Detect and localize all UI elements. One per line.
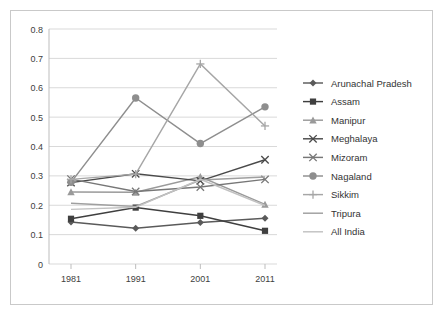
- x-axis-tick-label: 2001: [190, 274, 210, 284]
- x-axis-tick-label: 2011: [255, 274, 274, 284]
- legend-item-label: Sikkim: [331, 189, 359, 200]
- y-axis-tick-label: 0: [38, 260, 43, 270]
- legend-item-label: Assam: [331, 96, 360, 107]
- y-axis-tick-label: 0.7: [30, 54, 43, 64]
- legend-item-label: Meghalaya: [331, 133, 378, 144]
- data-point-marker: [197, 219, 204, 226]
- x-axis-tick-label: 1991: [126, 274, 146, 284]
- data-point-marker: [310, 99, 316, 105]
- chart-frame: 00.10.20.30.40.50.60.70.8198119912001201…: [10, 10, 433, 305]
- legend-item-sikkim[interactable]: Sikkim: [303, 189, 359, 200]
- legend-item-mizoram[interactable]: Mizoram: [303, 152, 368, 163]
- legend-item-all-india[interactable]: All India: [303, 226, 366, 237]
- series-arunachal-pradesh: [68, 215, 269, 232]
- series-line: [71, 160, 265, 183]
- series-line: [71, 218, 265, 228]
- data-point-marker: [262, 228, 268, 234]
- legend-item-manipur[interactable]: Manipur: [303, 115, 365, 126]
- series-meghalaya: [67, 156, 268, 186]
- data-point-marker: [262, 215, 269, 222]
- y-axis-tick-label: 0.5: [30, 113, 43, 123]
- legend-item-label: Arunachal Pradesh: [331, 78, 412, 89]
- legend-item-nagaland[interactable]: Nagaland: [303, 171, 372, 182]
- data-point-marker: [310, 80, 317, 87]
- data-point-marker: [309, 172, 316, 179]
- y-axis-tick-label: 0.8: [30, 25, 43, 35]
- legend-item-label: Mizoram: [331, 152, 368, 163]
- data-point-marker: [68, 216, 74, 222]
- y-axis-tick-label: 0.1: [30, 230, 43, 240]
- legend-item-label: Manipur: [331, 115, 365, 126]
- series-nagaland: [67, 94, 268, 186]
- y-axis-tick-label: 0.4: [30, 142, 43, 152]
- legend-item-label: Tripura: [331, 208, 361, 219]
- y-axis-tick-label: 0.3: [30, 171, 43, 181]
- data-point-marker: [261, 103, 268, 110]
- data-point-marker: [132, 225, 139, 232]
- data-point-marker: [261, 156, 268, 163]
- data-point-marker: [197, 213, 203, 219]
- line-chart: 00.10.20.30.40.50.60.70.8198119912001201…: [11, 11, 432, 304]
- legend-item-label: All India: [331, 226, 366, 237]
- series-line: [71, 177, 265, 205]
- series-line: [71, 208, 265, 231]
- legend-item-label: Nagaland: [331, 171, 372, 182]
- y-axis-tick-label: 0.2: [30, 201, 43, 211]
- data-point-marker: [197, 140, 204, 147]
- data-point-marker: [309, 191, 317, 199]
- data-point-marker: [132, 94, 139, 101]
- legend-item-tripura[interactable]: Tripura: [303, 208, 361, 219]
- x-axis-tick-label: 1981: [61, 274, 81, 284]
- legend-item-arunachal-pradesh[interactable]: Arunachal Pradesh: [303, 78, 412, 89]
- legend-item-assam[interactable]: Assam: [303, 96, 360, 107]
- y-axis-tick-label: 0.6: [30, 83, 43, 93]
- legend-item-meghalaya[interactable]: Meghalaya: [303, 133, 378, 144]
